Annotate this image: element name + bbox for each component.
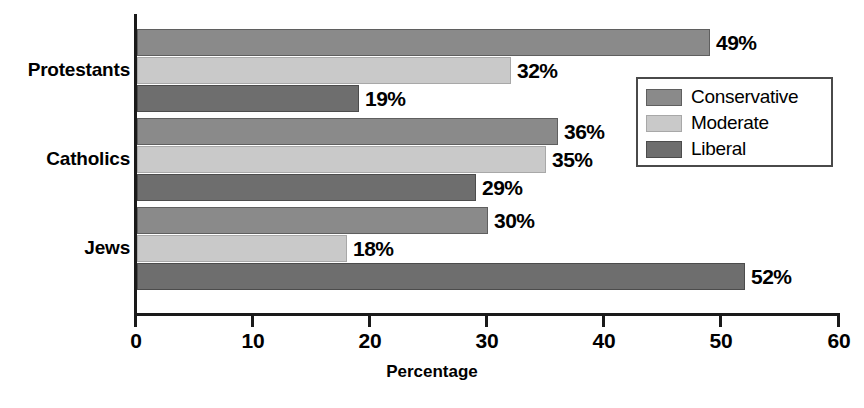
bar-value-protestants-conservative: 49% (716, 31, 757, 55)
bar-protestants-conservative (137, 29, 710, 56)
category-label-protestants: Protestants (0, 59, 130, 81)
x-tick-label-60: 60 (809, 329, 864, 353)
bar-jews-moderate (137, 235, 347, 262)
legend-label-moderate: Moderate (691, 112, 769, 134)
bar-value-catholics-moderate: 35% (552, 148, 593, 172)
x-tick-0 (134, 316, 137, 327)
category-label-jews: Jews (0, 237, 130, 259)
bar-protestants-liberal (137, 85, 359, 112)
bar-value-protestants-liberal: 19% (365, 87, 406, 111)
x-tick-50 (719, 316, 722, 327)
legend-label-liberal: Liberal (691, 138, 746, 160)
x-tick-label-0: 0 (106, 329, 166, 353)
legend-swatch-conservative-icon (646, 89, 682, 106)
legend-item-liberal[interactable]: Liberal (646, 136, 831, 162)
x-tick-label-10: 10 (223, 329, 283, 353)
x-tick-label-40: 40 (574, 329, 634, 353)
bar-catholics-conservative (137, 118, 558, 145)
x-tick-label-20: 20 (340, 329, 400, 353)
chart-legend: Conservative Moderate Liberal (636, 77, 833, 167)
x-tick-30 (485, 316, 488, 327)
legend-swatch-liberal-icon (646, 141, 682, 158)
category-label-catholics: Catholics (0, 148, 130, 170)
bar-value-jews-conservative: 30% (494, 209, 535, 233)
x-tick-60 (837, 316, 840, 327)
legend-label-conservative: Conservative (691, 86, 798, 108)
bar-jews-liberal (137, 263, 745, 290)
bar-catholics-liberal (137, 174, 476, 201)
bar-catholics-moderate (137, 146, 546, 173)
x-tick-40 (602, 316, 605, 327)
bar-value-catholics-conservative: 36% (564, 120, 605, 144)
bar-value-jews-liberal: 52% (751, 265, 792, 289)
x-tick-20 (368, 316, 371, 327)
bar-chart: 0 10 20 30 40 50 60 Percentage Protestan… (0, 0, 864, 408)
bar-value-catholics-liberal: 29% (482, 176, 523, 200)
bar-value-protestants-moderate: 32% (517, 59, 558, 83)
x-axis-title: Percentage (0, 362, 864, 382)
legend-item-moderate[interactable]: Moderate (646, 110, 831, 136)
x-tick-10 (251, 316, 254, 327)
x-tick-label-50: 50 (691, 329, 751, 353)
legend-item-conservative[interactable]: Conservative (646, 84, 831, 110)
bar-protestants-moderate (137, 57, 511, 84)
legend-swatch-moderate-icon (646, 115, 682, 132)
bar-value-jews-moderate: 18% (353, 237, 394, 261)
bar-jews-conservative (137, 207, 488, 234)
x-tick-label-30: 30 (457, 329, 517, 353)
